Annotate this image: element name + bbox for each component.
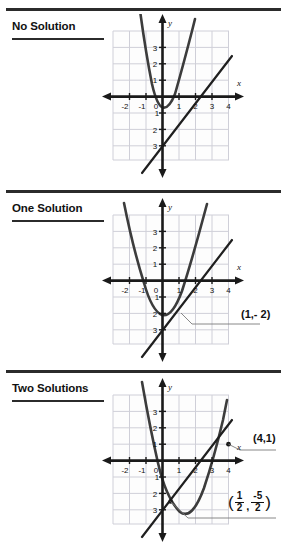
svg-text:4: 4 bbox=[226, 466, 231, 475]
panel-title-no-solution: No Solution bbox=[12, 20, 75, 32]
graph-svg-no-solution: x y -2 -1 0 1 2 3 4 3 2 1 1 bbox=[100, 14, 280, 179]
svg-text:1: 1 bbox=[155, 293, 160, 302]
graph-two-solutions: x y -2 -1 0 1 2 3 4 3 2 1 1 2 3 bbox=[100, 378, 280, 543]
svg-text:3: 3 bbox=[153, 326, 158, 335]
panel-one-solution: One Solution bbox=[0, 186, 287, 364]
panel-top-rule bbox=[6, 8, 281, 11]
fraction-neg-five-halves: -5 2 bbox=[251, 491, 264, 513]
y-axis-label: y bbox=[167, 18, 172, 28]
panel-no-solution: No Solution bbox=[0, 0, 287, 190]
title-underline bbox=[12, 400, 104, 402]
svg-text:4: 4 bbox=[226, 102, 231, 111]
svg-text:1: 1 bbox=[155, 109, 160, 118]
svg-text:-1: -1 bbox=[138, 286, 146, 295]
svg-text:-1: -1 bbox=[138, 466, 146, 475]
title-underline bbox=[12, 220, 104, 222]
svg-text:1: 1 bbox=[155, 473, 160, 482]
svg-text:3: 3 bbox=[153, 142, 158, 151]
svg-text:2: 2 bbox=[193, 286, 198, 295]
svg-text:-2: -2 bbox=[121, 466, 129, 475]
svg-text:1: 1 bbox=[177, 466, 182, 475]
svg-text:1: 1 bbox=[153, 76, 158, 85]
panel-top-rule bbox=[6, 370, 281, 373]
svg-text:1: 1 bbox=[153, 440, 158, 449]
svg-text:2: 2 bbox=[153, 244, 158, 253]
svg-text:3: 3 bbox=[210, 286, 215, 295]
graph-no-solution: x y -2 -1 0 1 2 3 4 3 2 1 1 bbox=[100, 14, 280, 179]
svg-text:3: 3 bbox=[210, 102, 215, 111]
svg-text:2: 2 bbox=[193, 102, 198, 111]
fraction-one-half: 1 2 bbox=[235, 491, 245, 513]
close-paren: ) bbox=[265, 494, 271, 511]
svg-text:3: 3 bbox=[153, 228, 158, 237]
svg-text:3: 3 bbox=[210, 466, 215, 475]
svg-text:4: 4 bbox=[226, 286, 231, 295]
svg-text:3: 3 bbox=[153, 44, 158, 53]
svg-text:2: 2 bbox=[153, 310, 158, 319]
y-axis-label: y bbox=[167, 382, 172, 392]
svg-text:2: 2 bbox=[153, 424, 158, 433]
svg-text:2: 2 bbox=[153, 60, 158, 69]
title-underline bbox=[12, 38, 104, 40]
graph-one-solution: x y -2 -1 0 1 2 3 4 3 2 1 1 2 3 bbox=[100, 198, 280, 363]
svg-text:-2: -2 bbox=[121, 102, 129, 111]
x-axis-label: x bbox=[236, 442, 241, 452]
svg-text:-2: -2 bbox=[121, 286, 129, 295]
svg-text:-1: -1 bbox=[138, 102, 146, 111]
comma-separator: , bbox=[246, 501, 249, 513]
graph-svg-one-solution: x y -2 -1 0 1 2 3 4 3 2 1 1 2 3 bbox=[100, 198, 280, 363]
illustration-page: No Solution bbox=[0, 0, 287, 545]
panel-top-rule bbox=[6, 190, 281, 193]
annotation-leader-line-upper bbox=[229, 444, 277, 450]
panel-title-two-solutions: Two Solutions bbox=[12, 382, 88, 394]
annotation-two-solutions-point-upper: (4,1) bbox=[253, 432, 276, 444]
svg-text:2: 2 bbox=[153, 490, 158, 499]
y-axis-label: y bbox=[167, 202, 172, 212]
x-axis-label: x bbox=[236, 78, 241, 88]
panel-title-one-solution: One Solution bbox=[12, 202, 82, 214]
open-paren: ( bbox=[228, 494, 234, 511]
panel-two-solutions: Two Solutions bbox=[0, 366, 287, 545]
annotation-one-solution-point: (1,- 2) bbox=[241, 308, 270, 320]
svg-text:2: 2 bbox=[153, 126, 158, 135]
svg-text:3: 3 bbox=[153, 408, 158, 417]
svg-text:3: 3 bbox=[153, 506, 158, 515]
svg-text:1: 1 bbox=[153, 260, 158, 269]
annotation-two-solutions-point-lower: ( 1 2 , -5 2 ) bbox=[228, 491, 271, 513]
svg-text:1: 1 bbox=[177, 286, 182, 295]
svg-text:1: 1 bbox=[177, 102, 182, 111]
svg-text:2: 2 bbox=[193, 466, 198, 475]
graph-svg-two-solutions: x y -2 -1 0 1 2 3 4 3 2 1 1 2 3 bbox=[100, 378, 280, 543]
x-axis-label: x bbox=[236, 262, 241, 272]
